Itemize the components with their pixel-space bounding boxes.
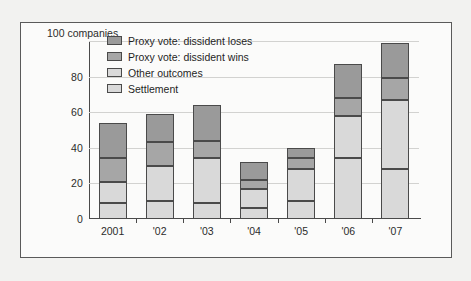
bar-segment-02-0 — [146, 201, 174, 219]
bar-segment-05-0 — [287, 201, 315, 219]
chart-legend: Proxy vote: dissident losesProxy vote: d… — [107, 33, 252, 97]
bar-06 — [334, 41, 362, 219]
bar-segment-06-2 — [334, 98, 362, 116]
legend-swatch-icon — [107, 36, 122, 45]
legend-swatch-icon — [107, 84, 122, 93]
x-tick-label-07: '07 — [365, 225, 425, 237]
bar-segment-04-2 — [240, 180, 268, 189]
bar-segment-03-3 — [193, 105, 221, 141]
y-tick-label-80: 80 — [71, 71, 83, 83]
bar-segment-05-2 — [287, 158, 315, 169]
bar-segment-02-1 — [146, 166, 174, 202]
bar-segment-03-0 — [193, 203, 221, 219]
legend-swatch-icon — [107, 68, 122, 77]
x-tick-mark-4 — [278, 219, 279, 223]
bar-segment-07-0 — [381, 169, 409, 219]
bar-segment-2001-1 — [99, 182, 127, 203]
legend-item: Proxy vote: dissident loses — [107, 33, 252, 48]
bar-segment-03-2 — [193, 141, 221, 159]
bar-segment-07-1 — [381, 100, 409, 169]
legend-item: Proxy vote: dissident wins — [107, 49, 252, 64]
bar-segment-06-1 — [334, 116, 362, 159]
chart-frame: 100 companies 020406080 2001'02'03'04'05… — [20, 22, 452, 258]
y-tick-label-20: 20 — [71, 177, 83, 189]
bar-segment-04-1 — [240, 189, 268, 209]
legend-swatch-icon — [107, 52, 122, 61]
bar-segment-02-2 — [146, 142, 174, 165]
bar-segment-06-0 — [334, 158, 362, 219]
y-tick-label-0: 0 — [77, 213, 83, 225]
x-tick-mark-6 — [372, 219, 373, 223]
bar-05 — [287, 41, 315, 219]
bar-segment-02-3 — [146, 114, 174, 142]
bar-segment-04-3 — [240, 162, 268, 180]
legend-item: Settlement — [107, 81, 252, 96]
bar-07 — [381, 41, 409, 219]
legend-label: Proxy vote: dissident wins — [128, 51, 249, 63]
bar-segment-2001-2 — [99, 158, 127, 181]
bar-segment-05-1 — [287, 169, 315, 201]
bar-segment-04-0 — [240, 208, 268, 219]
x-tick-mark-1 — [136, 219, 137, 223]
legend-item: Other outcomes — [107, 65, 252, 80]
legend-label: Other outcomes — [128, 67, 203, 79]
bar-segment-05-3 — [287, 148, 315, 159]
bar-segment-06-3 — [334, 64, 362, 98]
bar-segment-07-2 — [381, 78, 409, 99]
x-tick-mark-3 — [230, 219, 231, 223]
y-axis-line — [89, 41, 90, 219]
y-tick-label-60: 60 — [71, 106, 83, 118]
bar-segment-03-1 — [193, 158, 221, 203]
bar-segment-2001-3 — [99, 123, 127, 159]
legend-label: Settlement — [128, 83, 178, 95]
x-tick-mark-5 — [325, 219, 326, 223]
bar-segment-2001-0 — [99, 203, 127, 219]
bar-segment-07-3 — [381, 43, 409, 79]
legend-label: Proxy vote: dissident loses — [128, 35, 252, 47]
x-tick-mark-2 — [183, 219, 184, 223]
y-tick-label-40: 40 — [71, 142, 83, 154]
